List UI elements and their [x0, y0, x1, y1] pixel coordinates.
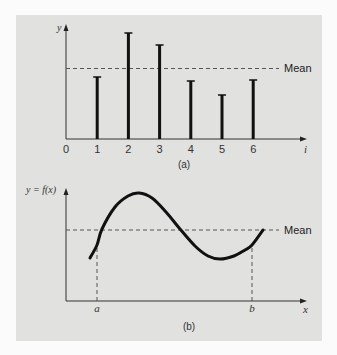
panel-a-bars — [93, 33, 257, 139]
stem-bar-6 — [249, 80, 257, 139]
stem-bar-2 — [124, 33, 132, 139]
x-tick-label-0: 0 — [63, 143, 69, 155]
panel-a-caption: (a) — [178, 159, 190, 170]
stem-bar-5 — [218, 95, 226, 139]
panel-b: Mean ab y = f(x) x (b) — [25, 184, 312, 332]
figure-svg: Mean 0123456 y i (a) Mean ab y = f(x) x … — [0, 0, 337, 355]
x-tick-label-2: 2 — [125, 143, 131, 155]
x-tick-label-5: 5 — [219, 143, 225, 155]
marker-label-b: b — [249, 302, 255, 314]
x-tick-label-6: 6 — [250, 143, 256, 155]
panel-a: Mean 0123456 y i (a) — [56, 22, 312, 170]
stem-bar-1 — [93, 77, 101, 139]
x-tick-label-1: 1 — [94, 143, 100, 155]
x-tick-label-3: 3 — [157, 143, 163, 155]
x-tick-label-4: 4 — [188, 143, 194, 155]
panel-b-y-label: y = f(x) — [25, 184, 57, 196]
panel-a-y-label: y — [56, 22, 62, 33]
stem-bar-4 — [187, 81, 195, 139]
panel-a-y-axis-arrow-icon — [64, 24, 69, 31]
panel-a-x-label: i — [304, 143, 307, 155]
panel-b-curve-f-of-x — [90, 193, 263, 259]
panel-a-x-axis-arrow-icon — [300, 137, 307, 142]
stem-bar-3 — [156, 45, 164, 139]
panel-a-mean-label: Mean — [284, 62, 312, 74]
panel-b-x-label: x — [302, 303, 308, 315]
panel-a-tick-labels: 0123456 — [63, 143, 256, 155]
marker-label-a: a — [94, 302, 100, 314]
panel-b-mean-label: Mean — [284, 224, 312, 236]
panel-b-interval-markers: ab — [94, 245, 255, 314]
panel-b-caption: (b) — [183, 321, 195, 332]
panel-b-y-axis-arrow-icon — [64, 188, 69, 195]
